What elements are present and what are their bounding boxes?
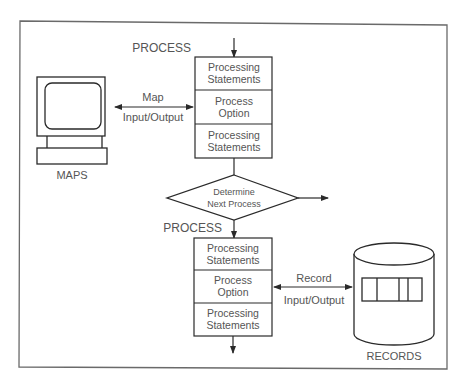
map-io-label-line2: Input/Output — [123, 111, 184, 123]
bottom-section-2-line1: Process — [214, 274, 252, 286]
decision-line2: Next Process — [207, 199, 261, 209]
diagram-canvas: PROCESS Processing Statements Process Op… — [0, 0, 464, 390]
record-io-label-line2: Input/Output — [284, 294, 345, 306]
maps-label: MAPS — [56, 169, 87, 181]
bottom-process-box: Processing Statements Process Option Pro… — [194, 238, 272, 336]
top-section-3-line2: Statements — [207, 141, 260, 153]
top-section-1-line2: Statements — [207, 73, 260, 85]
bottom-section-3-line2: Statements — [206, 319, 259, 331]
decision-diamond — [167, 175, 298, 220]
bottom-section-1-line2: Statements — [206, 254, 259, 266]
map-io-label-line1: Map — [142, 91, 163, 103]
records-label: RECORDS — [366, 350, 421, 362]
database-cylinder-icon — [354, 243, 434, 345]
decision-line1: Determine — [213, 187, 255, 197]
top-section-3-line1: Processing — [208, 129, 260, 141]
top-section-2-line1: Process — [215, 95, 253, 107]
record-io-label-line1: Record — [296, 272, 331, 284]
bottom-section-1-line1: Processing — [207, 242, 259, 254]
top-section-1-line1: Processing — [208, 61, 260, 73]
bottom-section-2-line2: Option — [218, 286, 249, 298]
bottom-section-3-line1: Processing — [207, 307, 259, 319]
top-process-box: Processing Statements Process Option Pro… — [195, 57, 272, 158]
top-section-2-line2: Option — [219, 107, 250, 119]
top-process-label: PROCESS — [132, 41, 191, 55]
monitor-icon — [37, 77, 107, 164]
bottom-process-label: PROCESS — [163, 221, 222, 235]
